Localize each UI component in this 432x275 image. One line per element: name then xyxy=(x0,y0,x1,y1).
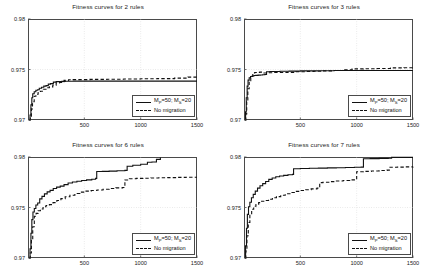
x-tick-label: 1000 xyxy=(134,260,146,266)
x-tick-label: 500 xyxy=(296,122,305,128)
y-tick-label: 0.97 xyxy=(230,255,241,261)
x-tick-label: 500 xyxy=(80,122,89,128)
legend-row-dashed: No migration xyxy=(352,244,407,252)
legend-label-dashed: No migration xyxy=(154,244,186,252)
x-tick-label: 1000 xyxy=(134,122,146,128)
y-tick-label: 0.975 xyxy=(11,67,25,73)
legend-swatch-solid xyxy=(136,99,151,106)
chart-panel-6-rules: Fitness curves for 6 rules 0.970.9750.98… xyxy=(0,138,216,275)
legend-row-solid: MP=50; MS=20 xyxy=(352,98,407,106)
legend-label-dashed: No migration xyxy=(370,106,402,114)
chart-panel-2-rules: Fitness curves for 2 rules 0.970.9750.98… xyxy=(0,0,216,137)
legend-box[interactable]: MP=50; MS=20 No migration xyxy=(348,95,411,117)
legend-swatch-dashed xyxy=(352,245,367,252)
x-tick-label: 1500 xyxy=(191,260,203,266)
x-tick-label: 500 xyxy=(296,260,305,266)
y-tick-label: 0.97 xyxy=(230,117,241,123)
legend-label-dashed: No migration xyxy=(154,106,186,114)
x-tick-label: 500 xyxy=(80,260,89,266)
x-tick-label: 1500 xyxy=(191,122,203,128)
y-tick-label: 0.975 xyxy=(227,67,241,73)
legend-row-solid: MP=50; MS=20 xyxy=(136,236,191,244)
legend-row-dashed: No migration xyxy=(136,106,191,114)
y-tick-label: 0.98 xyxy=(14,16,25,22)
legend-box[interactable]: MP=50; MS=20 No migration xyxy=(348,233,411,255)
y-tick-label: 0.98 xyxy=(14,154,25,160)
legend-swatch-solid xyxy=(352,99,367,106)
panel-title: Fitness curves for 2 rules xyxy=(0,3,216,10)
y-tick-label: 0.98 xyxy=(230,154,241,160)
legend-row-solid: MP=50; MS=20 xyxy=(352,236,407,244)
y-tick-label: 0.97 xyxy=(14,117,25,123)
y-tick-label: 0.98 xyxy=(230,16,241,22)
panel-title: Fitness curves for 7 rules xyxy=(216,141,432,148)
legend-swatch-dashed xyxy=(352,107,367,114)
legend-swatch-solid xyxy=(352,237,367,244)
panel-title: Fitness curves for 6 rules xyxy=(0,141,216,148)
legend-label-dashed: No migration xyxy=(370,244,402,252)
y-tick-label: 0.975 xyxy=(227,205,241,211)
legend-swatch-solid xyxy=(136,237,151,244)
legend-box[interactable]: MP=50; MS=20 No migration xyxy=(132,233,195,255)
x-tick-label: 1000 xyxy=(350,260,362,266)
plot-area: 0.970.9750.98 50010001500 MP=50; MS=20 N… xyxy=(244,19,413,120)
x-tick-label: 1000 xyxy=(350,122,362,128)
plot-area: 0.970.9750.98 50010001500 MP=50; MS=20 N… xyxy=(28,19,197,120)
plot-area: 0.970.9750.98 50010001500 MP=50; MS=20 N… xyxy=(244,157,413,258)
y-tick-label: 0.975 xyxy=(11,205,25,211)
legend-row-dashed: No migration xyxy=(352,106,407,114)
legend-box[interactable]: MP=50; MS=20 No migration xyxy=(132,95,195,117)
chart-panel-7-rules: Fitness curves for 7 rules 0.970.9750.98… xyxy=(216,138,432,275)
legend-swatch-dashed xyxy=(136,107,151,114)
legend-row-dashed: No migration xyxy=(136,244,191,252)
legend-row-solid: MP=50; MS=20 xyxy=(136,98,191,106)
panel-title: Fitness curves for 3 rules xyxy=(216,3,432,10)
figure-grid: Fitness curves for 2 rules 0.970.9750.98… xyxy=(0,0,432,275)
x-tick-label: 1500 xyxy=(407,260,419,266)
y-tick-label: 0.97 xyxy=(14,255,25,261)
plot-area: 0.970.9750.98 50010001500 MP=50; MS=20 N… xyxy=(28,157,197,258)
legend-swatch-dashed xyxy=(136,245,151,252)
x-tick-label: 1500 xyxy=(407,122,419,128)
chart-panel-3-rules: Fitness curves for 3 rules 0.970.9750.98… xyxy=(216,0,432,137)
